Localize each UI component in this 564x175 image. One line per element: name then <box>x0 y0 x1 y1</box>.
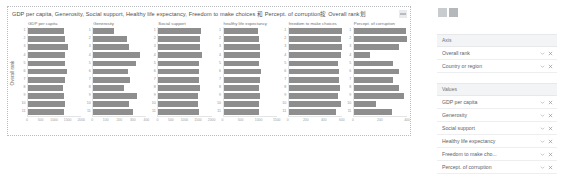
field-well-item[interactable]: Country or region <box>437 60 557 73</box>
bar[interactable] <box>289 85 340 91</box>
bar[interactable] <box>289 69 340 75</box>
more-options-icon[interactable] <box>399 10 407 18</box>
bar[interactable] <box>93 109 133 115</box>
bar[interactable] <box>93 36 126 42</box>
bar[interactable] <box>289 93 338 99</box>
bar[interactable] <box>224 61 259 67</box>
bar[interactable] <box>354 109 392 115</box>
bar[interactable] <box>354 93 405 99</box>
bar[interactable] <box>354 44 399 50</box>
close-icon[interactable] <box>548 51 553 56</box>
bar[interactable] <box>224 109 259 115</box>
bar[interactable] <box>158 85 199 91</box>
bar[interactable] <box>158 77 199 83</box>
bar[interactable] <box>93 52 140 58</box>
chevron-down-icon[interactable] <box>540 139 545 144</box>
bar[interactable] <box>158 44 200 50</box>
bar[interactable] <box>354 69 400 75</box>
bar[interactable] <box>158 109 199 115</box>
bar[interactable] <box>28 101 65 107</box>
bar[interactable] <box>158 101 198 107</box>
field-well-item[interactable]: Generosity <box>437 109 557 122</box>
bar[interactable] <box>289 109 336 115</box>
chart-panel[interactable]: GDP per capita12345678910110500100015002… <box>19 20 81 125</box>
bar[interactable] <box>158 69 199 75</box>
chevron-down-icon[interactable] <box>540 51 545 56</box>
chevron-down-icon[interactable] <box>540 152 545 157</box>
bar[interactable] <box>289 52 341 58</box>
bar[interactable] <box>354 61 394 67</box>
chevron-down-icon[interactable] <box>540 165 545 170</box>
bar[interactable] <box>28 93 64 99</box>
close-icon[interactable] <box>548 152 553 157</box>
visualizations-icon[interactable] <box>438 8 447 17</box>
bar[interactable] <box>158 28 200 34</box>
bar[interactable] <box>28 85 63 91</box>
bar[interactable] <box>28 61 65 67</box>
small-multiples-bar-visual[interactable]: GDP per capita, Generosity, Social suppo… <box>7 6 411 136</box>
bar[interactable] <box>224 69 261 75</box>
bar[interactable] <box>289 101 341 107</box>
chart-panel[interactable]: freedom to make choices12345678910110200… <box>280 20 342 125</box>
chevron-down-icon[interactable] <box>540 126 545 131</box>
bar[interactable] <box>93 61 136 67</box>
bar[interactable] <box>354 101 376 107</box>
chart-panel[interactable]: Generosity12345678910110100200300400 <box>84 20 146 125</box>
bar[interactable] <box>28 52 65 58</box>
bar[interactable] <box>158 61 198 67</box>
bar[interactable] <box>93 77 130 83</box>
bar[interactable] <box>93 101 128 107</box>
bar[interactable] <box>289 44 342 50</box>
bar[interactable] <box>28 44 68 50</box>
bar[interactable] <box>158 52 201 58</box>
bar[interactable] <box>289 61 338 67</box>
bar[interactable] <box>289 36 341 42</box>
bar[interactable] <box>93 85 124 91</box>
bar[interactable] <box>28 28 64 34</box>
field-well-item[interactable]: Social support <box>437 122 557 135</box>
bar[interactable] <box>354 36 407 42</box>
bar[interactable] <box>354 28 406 34</box>
bar[interactable] <box>224 52 260 58</box>
fields-icon[interactable] <box>449 8 458 17</box>
bar[interactable] <box>224 93 260 99</box>
report-canvas[interactable]: GDP per capita, Generosity, Social suppo… <box>0 0 420 175</box>
bar[interactable] <box>289 77 339 83</box>
bar[interactable] <box>354 52 370 58</box>
bar[interactable] <box>289 28 342 34</box>
close-icon[interactable] <box>548 64 553 69</box>
bar[interactable] <box>28 77 65 83</box>
chevron-down-icon[interactable] <box>540 64 545 69</box>
field-well-item[interactable]: Freedom to make cho... <box>437 148 557 161</box>
bar[interactable] <box>224 77 261 83</box>
bar[interactable] <box>224 44 260 50</box>
field-well-item[interactable]: Percept. of corruption <box>437 161 557 174</box>
bar[interactable] <box>93 93 137 99</box>
bar[interactable] <box>224 28 259 34</box>
field-well-item[interactable]: Overall rank <box>437 47 557 60</box>
bar[interactable] <box>158 93 198 99</box>
bar[interactable] <box>93 69 128 75</box>
close-icon[interactable] <box>548 113 553 118</box>
chevron-down-icon[interactable] <box>540 113 545 118</box>
close-icon[interactable] <box>548 165 553 170</box>
close-icon[interactable] <box>548 139 553 144</box>
bar[interactable] <box>224 101 260 107</box>
visualizations-pane[interactable]: Axis Overall rankCountry or region Value… <box>430 0 564 175</box>
bar[interactable] <box>224 36 259 42</box>
chart-panel[interactable]: Social support12345678910110500100015002… <box>149 20 211 125</box>
bar[interactable] <box>354 77 394 83</box>
close-icon[interactable] <box>548 100 553 105</box>
bar[interactable] <box>158 36 200 42</box>
close-icon[interactable] <box>548 126 553 131</box>
bar[interactable] <box>93 28 113 34</box>
bar[interactable] <box>224 85 260 91</box>
bar[interactable] <box>28 109 64 115</box>
field-well-item[interactable]: Healthy life expectancy <box>437 135 557 148</box>
bar[interactable] <box>354 85 400 91</box>
field-well-item[interactable]: GDP per capita <box>437 96 557 109</box>
chart-panel[interactable]: healthy life expectancy12345678910110500… <box>215 20 277 125</box>
bar[interactable] <box>28 69 67 75</box>
chevron-down-icon[interactable] <box>540 100 545 105</box>
chart-panel[interactable]: Percept. of corruption123456789101102004… <box>345 20 407 125</box>
